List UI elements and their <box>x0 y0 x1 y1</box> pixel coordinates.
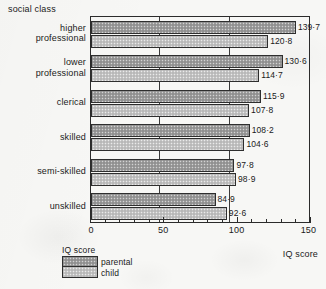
x-tick-label-100: 100 <box>229 225 245 235</box>
category-label-4: semi-skilled <box>0 166 86 177</box>
legend-entry-child: child <box>62 267 133 278</box>
bar-parental-3 <box>91 124 250 137</box>
category-label-5: unskilled <box>0 201 86 212</box>
bar-value-parental-1: 130·6 <box>285 55 307 68</box>
plot-area: 139·7120·8130·6114·7115·9107·8108·2104·6… <box>90 16 310 223</box>
x-axis: 050100150 <box>90 223 310 224</box>
x-tick-110 <box>251 219 252 223</box>
legend-rows: parentalchild <box>62 256 133 278</box>
legend-swatch-parental <box>62 256 98 267</box>
legend-label-child: child <box>101 268 119 278</box>
x-tick-40 <box>149 219 150 223</box>
bar-value-child-2: 107·8 <box>251 104 273 117</box>
x-tick-70 <box>193 219 194 223</box>
bar-parental-5 <box>91 193 216 206</box>
x-tick-label-0: 0 <box>88 225 93 235</box>
bar-value-child-0: 120·8 <box>270 35 292 48</box>
bar-value-parental-5: 84·9 <box>218 193 235 206</box>
chart-page: social class IQ score 139·7120·8130·6114… <box>0 0 326 289</box>
bar-child-1 <box>91 69 259 82</box>
x-tick-90 <box>222 219 223 223</box>
bar-value-child-1: 114·7 <box>261 69 283 82</box>
bar-parental-0 <box>91 21 296 34</box>
gridline-50 <box>159 17 160 222</box>
bar-child-3 <box>91 138 244 151</box>
legend-entry-parental: parental <box>62 256 133 267</box>
x-axis-title-iq-score: IQ score <box>283 249 318 259</box>
x-tick-80 <box>207 219 208 223</box>
x-tick-30 <box>134 219 135 223</box>
bar-value-parental-3: 108·2 <box>252 124 274 137</box>
bar-parental-2 <box>91 90 261 103</box>
legend: IQ score parentalchild <box>62 245 133 278</box>
x-tick-120 <box>266 219 267 223</box>
x-tick-10 <box>105 219 106 223</box>
x-tick-130 <box>281 219 282 223</box>
x-tick-50 <box>163 217 164 223</box>
bar-value-parental-4: 97·8 <box>236 159 253 172</box>
x-tick-0 <box>90 217 91 223</box>
bar-parental-4 <box>91 159 234 172</box>
gridline-100 <box>229 17 230 222</box>
bar-value-parental-2: 115·9 <box>263 90 285 103</box>
x-tick-100 <box>237 217 238 223</box>
category-label-0: higher professional <box>0 23 86 44</box>
x-tick-label-50: 50 <box>158 225 168 235</box>
x-tick-150 <box>310 217 311 223</box>
x-tick-label-150: 150 <box>301 225 317 235</box>
x-tick-20 <box>119 219 120 223</box>
category-label-2: clerical <box>0 97 86 108</box>
legend-swatch-child <box>62 267 98 278</box>
bar-value-child-4: 98·9 <box>238 173 255 186</box>
y-axis-title-social-class: social class <box>8 4 56 14</box>
legend-label-parental: parental <box>101 257 133 267</box>
category-label-1: lower professional <box>0 57 86 78</box>
category-label-3: skilled <box>0 132 86 143</box>
bar-value-child-3: 104·6 <box>246 138 268 151</box>
bar-child-2 <box>91 104 249 117</box>
x-tick-60 <box>178 219 179 223</box>
bar-child-0 <box>91 35 268 48</box>
bar-child-4 <box>91 173 236 186</box>
bar-value-parental-0: 139·7 <box>298 21 320 34</box>
legend-title: IQ score <box>62 245 133 255</box>
x-tick-140 <box>295 219 296 223</box>
bar-parental-1 <box>91 55 283 68</box>
